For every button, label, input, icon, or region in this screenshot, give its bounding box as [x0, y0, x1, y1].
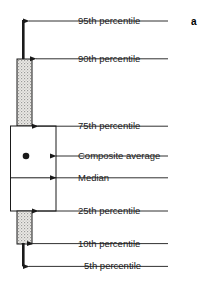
composite-average-dot	[23, 153, 30, 160]
interquartile-box	[11, 126, 57, 211]
box-plot-legend-figure: 95th percentile 90th percentile 75th per…	[0, 0, 211, 289]
label-25th-percentile: 25th percentile	[78, 206, 140, 216]
label-75th-percentile: 75th percentile	[78, 121, 140, 131]
upper-stipple-region	[17, 59, 32, 126]
lower-stipple-region	[17, 211, 32, 244]
label-5th-percentile: 5th percentile	[84, 261, 141, 271]
panel-letter: a	[191, 17, 197, 27]
label-composite-average: Composite average	[78, 151, 160, 161]
label-10th-percentile: 10th percentile	[78, 239, 140, 249]
label-90th-percentile: 90th percentile	[78, 54, 140, 64]
label-95th-percentile: 95th percentile	[78, 16, 140, 26]
label-median: Median	[78, 173, 109, 183]
